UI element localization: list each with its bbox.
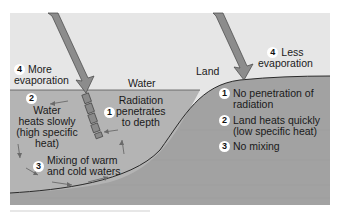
number-badge-1-water: 1 — [104, 107, 118, 118]
no-penetration-label: 1No penetration of radiation — [219, 88, 314, 110]
no-mixing-label: 3No mixing — [219, 141, 280, 152]
more-evaporation-label: 4More evaporation — [14, 64, 69, 86]
number-badge-3-water: 3 — [33, 161, 44, 172]
radiation-penetrates-label: Radiation penetrates to depth — [116, 95, 166, 128]
number-badge-2-water: 2 — [26, 93, 40, 104]
water-heats-slowly-label: Water heats slowly (high specific heat) — [12, 105, 82, 149]
land-water-heating-diagram: 4More evaporation Water Radiation penetr… — [0, 0, 338, 216]
less-evaporation-label: 4Less evaporation — [258, 47, 313, 69]
water-region-label: Water — [128, 78, 156, 89]
land-heats-quickly-label: 2Land heats quickly (low specific heat) — [219, 115, 320, 137]
mixing-warm-cold-label: 3Mixing of warmand cold waters — [33, 155, 121, 177]
number-badge-3-land: 3 — [219, 141, 230, 152]
land-region-label: Land — [196, 66, 219, 77]
